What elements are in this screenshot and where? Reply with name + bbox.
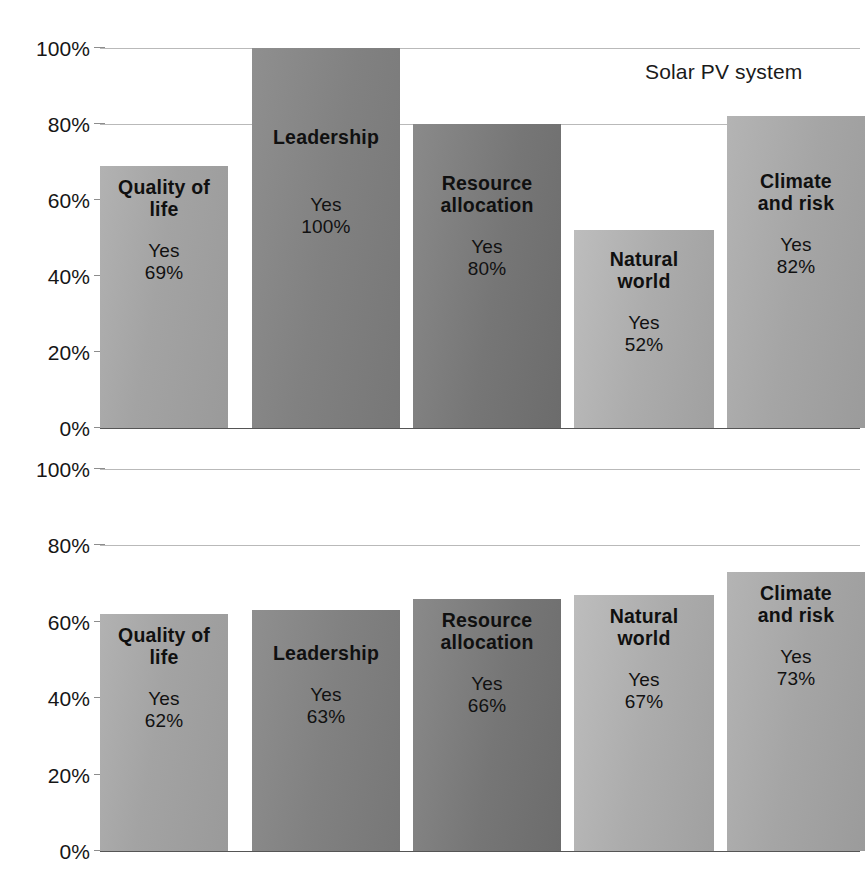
bar-category-label: Quality of life bbox=[118, 176, 210, 220]
bar-value-label: Yes 100% bbox=[301, 194, 350, 238]
bars-container-solar: Quality of life Yes 69% Leadership Yes 1… bbox=[100, 48, 860, 428]
ytick-label: 0% bbox=[59, 840, 90, 863]
bar-value-label: Yes 63% bbox=[307, 684, 346, 728]
bar-value-label: Yes 66% bbox=[468, 673, 507, 717]
bar-category-label: Resource allocation bbox=[440, 172, 533, 216]
ytick-label: 100% bbox=[36, 458, 90, 481]
bar-value-label: Yes 67% bbox=[625, 669, 664, 713]
bar-value-label: Yes 73% bbox=[777, 646, 816, 690]
bar-climate-and-risk-solar[interactable]: Climate and risk Yes 82% bbox=[727, 116, 865, 428]
ytick-0-diesel: 0% bbox=[4, 841, 90, 862]
ytick-label: 20% bbox=[48, 341, 90, 364]
bar-climate-and-risk-diesel[interactable]: Climate and risk Yes 73% bbox=[727, 572, 865, 851]
bar-category-label: Quality of life bbox=[118, 624, 210, 668]
ytick-label: 40% bbox=[48, 265, 90, 288]
bar-natural-world-solar[interactable]: Natural world Yes 52% bbox=[574, 230, 714, 428]
ytick-60-diesel: 60% bbox=[4, 612, 90, 633]
ytick-100-solar: 100% bbox=[4, 38, 90, 59]
ytick-label: 80% bbox=[48, 534, 90, 557]
ytick-label: 60% bbox=[48, 611, 90, 634]
plot-area-solar: 100% 80% 60% 40% 20% 0% Quality of bbox=[100, 48, 860, 428]
bar-category-label: Climate and risk bbox=[758, 170, 834, 214]
ytick-label: 20% bbox=[48, 764, 90, 787]
ytick-60-solar: 60% bbox=[4, 190, 90, 211]
ytick-20-diesel: 20% bbox=[4, 765, 90, 786]
ytick-label: 100% bbox=[36, 37, 90, 60]
axis-baseline bbox=[100, 428, 860, 429]
bar-value-label: Yes 62% bbox=[145, 688, 184, 732]
bar-resource-allocation-solar[interactable]: Resource allocation Yes 80% bbox=[413, 124, 561, 428]
bar-value-label: Yes 69% bbox=[145, 240, 184, 284]
bar-category-label: Natural world bbox=[610, 248, 679, 292]
bar-category-label: Resource allocation bbox=[440, 609, 533, 653]
ytick-80-diesel: 80% bbox=[4, 535, 90, 556]
chart-panel-diesel: Diesel power generation system 100% 80% … bbox=[0, 450, 868, 893]
bars-container-diesel: Quality of life Yes 62% Leadership Yes 6… bbox=[100, 469, 860, 851]
bar-leadership-diesel[interactable]: Leadership Yes 63% bbox=[252, 610, 400, 851]
bar-value-label: Yes 52% bbox=[625, 312, 664, 356]
ytick-20-solar: 20% bbox=[4, 342, 90, 363]
ytick-label: 40% bbox=[48, 687, 90, 710]
ytick-100-diesel: 100% bbox=[4, 459, 90, 480]
plot-area-diesel: 100% 80% 60% 40% 20% 0% Quality of bbox=[100, 469, 860, 851]
bar-quality-of-life-diesel[interactable]: Quality of life Yes 62% bbox=[100, 614, 228, 851]
bar-quality-of-life-solar[interactable]: Quality of life Yes 69% bbox=[100, 166, 228, 428]
bar-category-label: Leadership bbox=[273, 126, 379, 148]
chart-panel-solar: Solar PV system 100% 80% 60% 40% 20% 0% bbox=[0, 0, 868, 450]
bar-category-label: Climate and risk bbox=[758, 582, 834, 626]
axis-baseline bbox=[100, 851, 860, 852]
ytick-40-solar: 40% bbox=[4, 266, 90, 287]
ytick-label: 80% bbox=[48, 113, 90, 136]
bar-value-label: Yes 80% bbox=[468, 236, 507, 280]
bar-category-label: Natural world bbox=[610, 605, 679, 649]
ytick-40-diesel: 40% bbox=[4, 688, 90, 709]
bar-resource-allocation-diesel[interactable]: Resource allocation Yes 66% bbox=[413, 599, 561, 851]
bar-category-label: Leadership bbox=[273, 642, 379, 664]
ytick-label: 60% bbox=[48, 189, 90, 212]
ytick-80-solar: 80% bbox=[4, 114, 90, 135]
bar-value-label: Yes 82% bbox=[777, 234, 816, 278]
ytick-0-solar: 0% bbox=[4, 418, 90, 439]
ytick-label: 0% bbox=[59, 417, 90, 440]
bar-leadership-solar[interactable]: Leadership Yes 100% bbox=[252, 48, 400, 428]
bar-natural-world-diesel[interactable]: Natural world Yes 67% bbox=[574, 595, 714, 851]
